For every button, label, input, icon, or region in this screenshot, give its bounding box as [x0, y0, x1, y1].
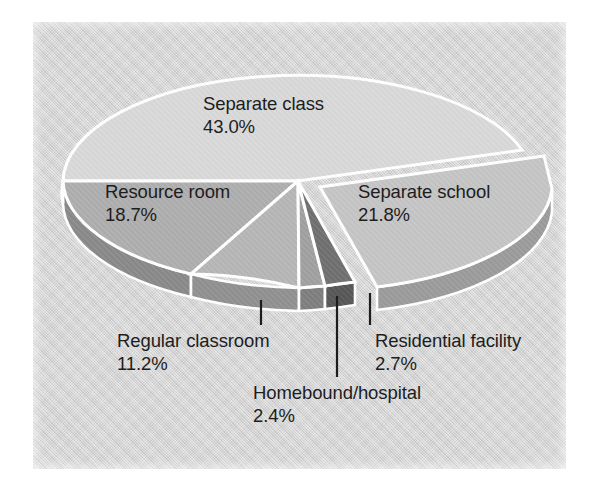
label-regular-classroom-percent: 11.2% — [117, 352, 270, 375]
label-separate-class-name: Separate class — [203, 93, 324, 114]
label-separate-school-percent: 21.8% — [358, 203, 490, 226]
label-separate-class: Separate class 43.0% — [203, 92, 324, 138]
label-homebound-hospital: Homebound/hospital 2.4% — [253, 381, 421, 427]
label-homebound-hospital-name: Homebound/hospital — [253, 382, 421, 403]
label-resource-room-percent: 18.7% — [105, 203, 230, 226]
label-separate-school-name: Separate school — [358, 181, 490, 202]
label-residential-facility-name: Residential facility — [375, 330, 521, 351]
label-resource-room-name: Resource room — [105, 181, 230, 202]
figure-canvas: Separate class 43.0% Resource room 18.7%… — [0, 0, 597, 487]
label-separate-school: Separate school 21.8% — [358, 180, 490, 226]
label-regular-classroom: Regular classroom 11.2% — [117, 329, 270, 375]
label-homebound-hospital-percent: 2.4% — [253, 404, 421, 427]
label-resource-room: Resource room 18.7% — [105, 180, 230, 226]
label-residential-facility: Residential facility 2.7% — [375, 329, 521, 375]
label-regular-classroom-name: Regular classroom — [117, 330, 270, 351]
label-residential-facility-percent: 2.7% — [375, 352, 521, 375]
label-separate-class-percent: 43.0% — [203, 115, 324, 138]
